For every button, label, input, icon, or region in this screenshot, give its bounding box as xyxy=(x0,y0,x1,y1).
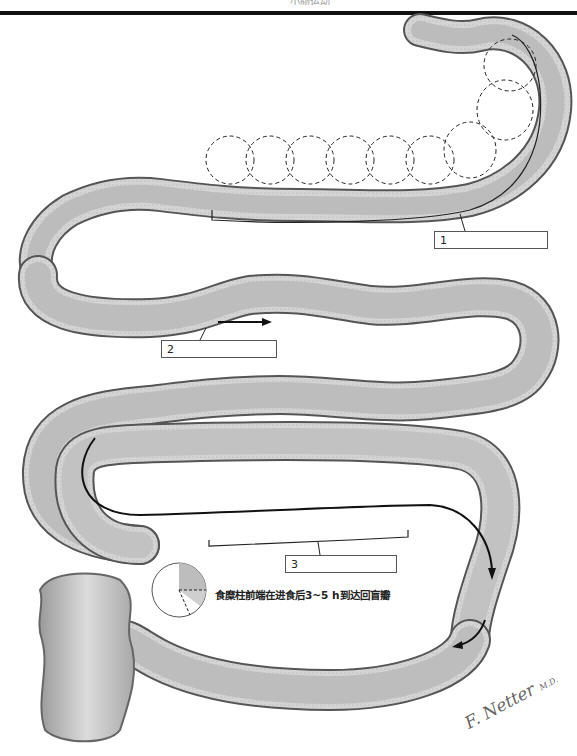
caecum xyxy=(39,573,134,741)
clock-icon xyxy=(152,563,206,617)
propulsive-loop xyxy=(74,441,500,640)
leader-3 xyxy=(318,542,320,555)
intestine-illustration xyxy=(0,0,577,756)
label-box-1[interactable]: 1 xyxy=(434,231,548,249)
label-box-3[interactable]: 3 xyxy=(285,555,397,573)
timing-caption: 食糜柱前端在进食后3~5 h到达回盲瓣 xyxy=(215,587,390,602)
bracket-3 xyxy=(209,530,408,546)
segmentation-dashed-outlines xyxy=(206,39,536,184)
terminal-ileum xyxy=(120,640,470,690)
label-box-2[interactable]: 2 xyxy=(161,340,277,358)
peristalsis-loop xyxy=(38,275,540,545)
